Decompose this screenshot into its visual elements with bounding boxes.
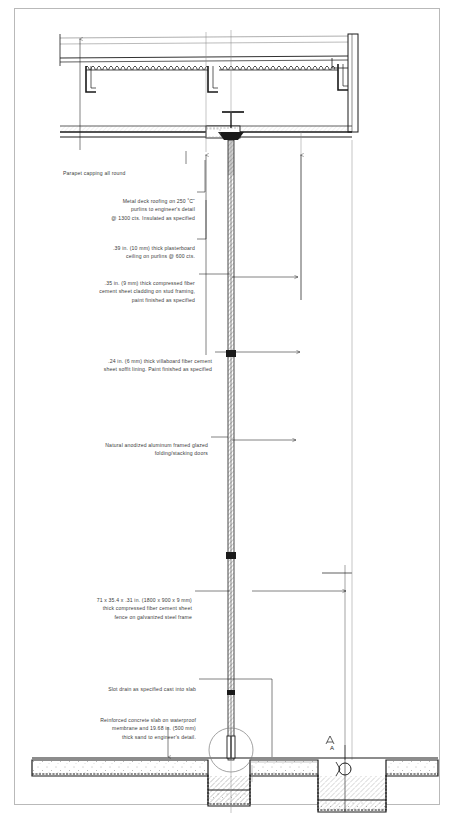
head-bracket [218, 132, 244, 140]
note-parapet-text: Parapet capping all round [63, 170, 126, 176]
glazing-panel [229, 160, 233, 350]
roof-assembly [60, 34, 358, 137]
note-fence-panels-text: 71 x 35.4 x .31 in. (1800 x 900 x 9 mm) … [97, 597, 192, 620]
fence-panel-lower [229, 559, 233, 690]
note-parapet: Parapet capping all round [63, 160, 183, 177]
note-fiber-cement-cladding: .35 in. (9 mm) thick compressed fiber ce… [56, 270, 195, 304]
note-folding-stacking-doors-text: Natural anodized aluminum framed glazed … [105, 442, 208, 457]
note-concrete-slab: Reinforced concrete slab on waterproof m… [54, 707, 196, 741]
footing-left-fill [209, 776, 249, 805]
roof-deck-top [60, 56, 348, 58]
note-fiber-cement-cladding-text: .35 in. (9 mm) thick compressed fiber ce… [99, 280, 195, 303]
roof-upper-line-2 [60, 42, 356, 44]
note-folding-stacking-doors: Natural anodized aluminum framed glazed … [56, 432, 208, 458]
section-mark-a-icon [326, 736, 334, 744]
note-metal-deck-roofing-text: Metal deck roofing on 250 ˚C˜ purlins to… [111, 198, 195, 221]
note-plasterboard-ceiling-text: .39 in. (10 mm) thick plasterboard ceili… [113, 245, 195, 260]
note-plasterboard-ceiling: .39 in. (10 mm) thick plasterboard ceili… [60, 235, 195, 261]
purlin-c-inner-3 [343, 64, 348, 86]
footing-right-fill [319, 776, 385, 811]
note-concrete-slab-text: Reinforced concrete slab on waterproof m… [100, 717, 196, 740]
note-fence-panels: 71 x 35.4 x .31 in. (1800 x 900 x 9 mm) … [58, 587, 192, 621]
leader-plasterboard [197, 200, 206, 239]
fence-fixing-top [226, 350, 236, 357]
note-villaboard-soffit-text: .24 in. (6 mm) thick villaboard fiber ce… [104, 358, 212, 373]
note-slot-drain: Slot drain as specified cast into slab [70, 676, 196, 693]
fence-panel-upper [229, 357, 233, 552]
fence-base-fixing [227, 690, 235, 695]
section-drawing-canvas: A [0, 0, 454, 813]
purlin-c-inner-2 [213, 66, 218, 88]
fence-fixing-bottom [226, 552, 236, 559]
note-villaboard-soffit: .24 in. (6 mm) thick villaboard fiber ce… [52, 348, 212, 374]
note-metal-deck-roofing: Metal deck roofing on 250 ˚C˜ purlins to… [60, 188, 195, 222]
roof-insulation-right [219, 61, 335, 70]
leader-slot-drain [199, 679, 272, 757]
roof-insulation-left [86, 61, 208, 70]
parapet-capping-right [348, 34, 358, 132]
roof-upper-line [60, 36, 356, 38]
leader-metal-deck [197, 160, 205, 192]
section-mark-a-label: A [330, 745, 334, 751]
dimension-arrows[interactable] [80, 39, 346, 757]
drawing-sheet: A Parapet capping all round Metal deck r… [0, 0, 454, 813]
fence-and-glazing [229, 160, 233, 690]
door-head-detail [206, 112, 244, 140]
note-slot-drain-text: Slot drain as specified cast into slab [108, 686, 196, 692]
